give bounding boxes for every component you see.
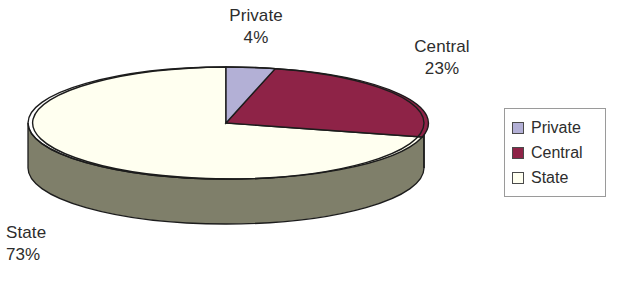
pie-chart-figure: Private 4% Central 23% State 73% Private… xyxy=(0,0,618,287)
slice-label-state-name: State xyxy=(6,222,116,244)
pie-top-face xyxy=(28,67,428,179)
slice-label-private-percent: 4% xyxy=(196,27,316,49)
slice-label-state: State 73% xyxy=(6,222,116,267)
chart-legend: Private Central State xyxy=(504,108,606,197)
legend-label-private: Private xyxy=(531,120,581,136)
slice-label-central-percent: 23% xyxy=(382,58,502,80)
legend-swatch-private-icon xyxy=(512,122,524,134)
legend-swatch-central-icon xyxy=(512,147,524,159)
slice-label-central: Central 23% xyxy=(382,36,502,81)
legend-label-state: State xyxy=(531,170,568,186)
slice-label-state-percent: 73% xyxy=(6,244,116,266)
legend-item-private[interactable]: Private xyxy=(512,115,605,140)
legend-swatch-state-icon xyxy=(512,172,524,184)
slice-label-private: Private 4% xyxy=(196,5,316,50)
legend-item-central[interactable]: Central xyxy=(512,140,605,165)
slice-label-central-name: Central xyxy=(382,36,502,58)
legend-label-central: Central xyxy=(531,145,583,161)
slice-label-private-name: Private xyxy=(196,5,316,27)
legend-item-state[interactable]: State xyxy=(512,165,605,190)
